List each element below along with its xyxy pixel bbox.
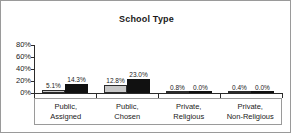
bar-value-label: 0.4% xyxy=(232,84,247,91)
bar-slot: 23.0% xyxy=(127,45,150,93)
y-axis-tick-label: 80% xyxy=(16,41,31,49)
bar-slot: 5.1% xyxy=(42,45,65,93)
bar[interactable] xyxy=(189,91,212,93)
bar[interactable] xyxy=(127,79,150,93)
category-label-line: Religious xyxy=(173,112,204,122)
y-axis-tick-label: 0% xyxy=(20,89,31,97)
category-label: Public,Chosen xyxy=(97,99,159,124)
plot-area: 5.1%14.3%12.8%23.0%0.8%0.0%0.4%0.0% xyxy=(34,45,281,93)
bar[interactable] xyxy=(251,91,274,93)
bar-group: 0.4%0.0% xyxy=(220,45,282,93)
bar-group: 5.1%14.3% xyxy=(34,45,96,93)
category-label-line: Private, xyxy=(238,102,263,112)
category-label-line: Chosen xyxy=(114,112,140,122)
category-label-line: Private, xyxy=(176,102,201,112)
bar[interactable] xyxy=(65,84,88,93)
bar[interactable] xyxy=(228,91,251,93)
chart-container: School Type 80%60%40%20%0% 5.1%14.3%12.8… xyxy=(0,0,291,133)
y-axis-tick-label: 40% xyxy=(16,65,31,73)
bar-slot: 0.8% xyxy=(166,45,189,93)
category-label-box: Public,AssignedPublic,ChosenPrivate,Reli… xyxy=(34,98,282,125)
bar-group: 0.8%0.0% xyxy=(158,45,220,93)
bar-value-label: 5.1% xyxy=(46,82,61,89)
bar-slot: 0.0% xyxy=(189,45,212,93)
bar-group-bars: 12.8%23.0% xyxy=(96,45,158,93)
category-label-line: Public, xyxy=(116,102,139,112)
y-axis-tick-label: 60% xyxy=(16,53,31,61)
bar[interactable] xyxy=(104,85,127,93)
bar-value-label: 0.8% xyxy=(170,84,185,91)
bar-slot: 0.4% xyxy=(228,45,251,93)
category-label-line: Public, xyxy=(54,102,77,112)
y-axis-tick-label: 20% xyxy=(16,77,31,85)
bar-value-label: 0.0% xyxy=(255,84,270,91)
bar-slot: 0.0% xyxy=(251,45,274,93)
category-label-line: Assigned xyxy=(50,112,81,122)
category-label: Private,Religious xyxy=(158,99,220,124)
y-axis-labels: 80%60%40%20%0% xyxy=(1,1,31,133)
bar-value-label: 14.3% xyxy=(67,76,85,83)
bar-slot: 14.3% xyxy=(65,45,88,93)
bar[interactable] xyxy=(42,90,65,93)
bar[interactable] xyxy=(166,91,189,93)
bar-group-bars: 5.1%14.3% xyxy=(34,45,96,93)
chart-title: School Type xyxy=(1,14,291,24)
category-label: Public,Assigned xyxy=(35,99,97,124)
bar-group-bars: 0.4%0.0% xyxy=(220,45,282,93)
bar-group: 12.8%23.0% xyxy=(96,45,158,93)
category-label: Private,Non-Religious xyxy=(220,99,282,124)
bar-slot: 12.8% xyxy=(104,45,127,93)
bar-group-bars: 0.8%0.0% xyxy=(158,45,220,93)
bar-value-label: 12.8% xyxy=(106,77,124,84)
bar-value-label: 0.0% xyxy=(193,84,208,91)
bar-value-label: 23.0% xyxy=(129,71,147,78)
x-axis-group-tick xyxy=(282,93,283,98)
category-label-line: Non-Religious xyxy=(227,112,274,122)
